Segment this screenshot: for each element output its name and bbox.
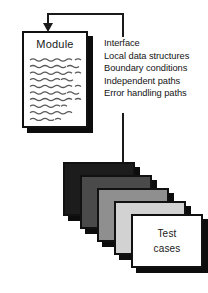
diagram-canvas: Module Interface Local data structures B… [0, 0, 208, 293]
test-cases-label: Test cases [133, 216, 201, 266]
test-case-card-5: Test cases [131, 214, 203, 268]
test-cases-label-line2: cases [153, 242, 180, 255]
test-cases-label-line1: Test [157, 227, 176, 240]
test-cases-stack: Test cases [0, 0, 208, 293]
